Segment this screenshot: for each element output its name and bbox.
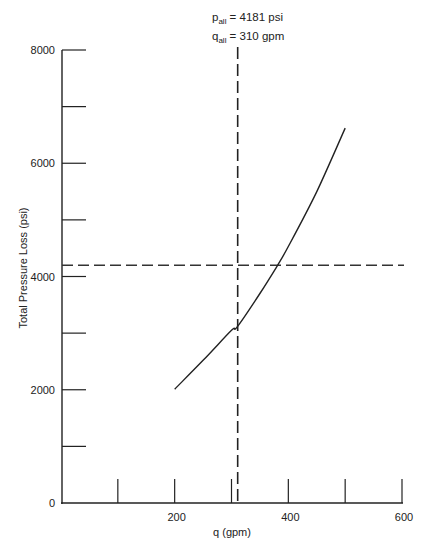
y-tick-label: 8000 [31, 44, 55, 56]
y-axis-ticks [62, 50, 86, 446]
q-all-annotation: qall = 310 gpm [212, 30, 284, 45]
x-axis-title: q (gpm) [213, 526, 251, 538]
pressure-loss-chart: pall = 4181 psi qall = 310 gpm 020004000… [0, 0, 430, 550]
x-tick-label: 200 [167, 511, 185, 523]
p-all-annotation: pall = 4181 psi [212, 11, 283, 26]
y-tick-label: 4000 [31, 271, 55, 283]
y-tick-label: 6000 [31, 157, 55, 169]
y-axis-title: Total Pressure Loss (psi) [17, 207, 29, 328]
y-tick-label: 2000 [31, 384, 55, 396]
x-axis-tick-labels: 200400600 [167, 511, 413, 523]
y-tick-label: 0 [49, 497, 55, 509]
pressure-loss-curve [175, 128, 346, 389]
y-axis-tick-labels: 02000400060008000 [31, 44, 55, 509]
x-tick-label: 600 [395, 511, 413, 523]
x-tick-label: 400 [281, 511, 299, 523]
x-axis-ticks [118, 479, 402, 503]
